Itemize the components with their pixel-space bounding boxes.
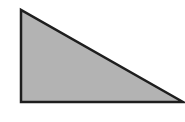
triangle-figure: [0, 0, 185, 122]
right-triangle-shape: [21, 10, 183, 102]
diagram-canvas: [0, 0, 185, 122]
